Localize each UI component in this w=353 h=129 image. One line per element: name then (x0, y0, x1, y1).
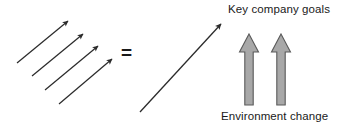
environment-change-label: Environment change (221, 110, 328, 123)
block-arrow-right (272, 34, 291, 105)
block-arrow-left (240, 34, 259, 105)
thin-arrow-4 (59, 59, 112, 104)
equals-operator: = (121, 43, 132, 62)
thin-arrow-1 (17, 21, 68, 63)
four-parallel-thin-arrows (17, 21, 112, 104)
diagram-canvas: = Key company goals Environment change (0, 0, 353, 129)
thin-arrow-2 (32, 34, 83, 76)
key-company-goals-label: Key company goals (228, 3, 330, 16)
thin-arrow-3 (45, 46, 98, 90)
resultant-diagonal-arrow (140, 24, 221, 112)
